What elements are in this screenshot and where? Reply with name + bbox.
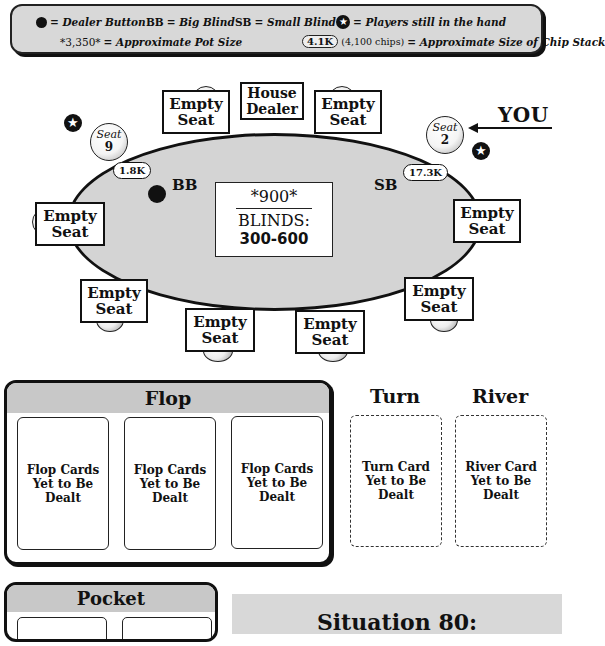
legend-panel: = Dealer Button BB = Big Blind SB = Smal… — [10, 4, 543, 54]
house-dealer: House Dealer — [240, 82, 304, 120]
dealer-text: House — [242, 85, 302, 101]
card-text: Dealt — [134, 491, 206, 505]
pocket-panel: Pocket — [4, 582, 218, 642]
card-text: Dealt — [241, 490, 313, 504]
empty-seat-top-left: Empty Seat — [162, 90, 230, 134]
seat-text: Empty — [297, 316, 363, 332]
legend-bb-abbr: BB — [146, 16, 164, 28]
pot-box: *900* BLINDS: 300-600 — [215, 182, 333, 257]
seat-text: Seat — [316, 112, 380, 128]
legend-row-2: *3,350* = Approximate Pot Size 4.1K (4,1… — [60, 35, 605, 48]
card-text: Flop Cards — [134, 463, 206, 477]
seat-text: Empty — [82, 285, 146, 301]
seat-text: Empty — [37, 208, 103, 224]
legend-chip-desc: = Approximate Size of Chip Stack — [407, 36, 605, 48]
legend-dealer: = Dealer Button — [36, 16, 146, 28]
pocket-title: Pocket — [7, 585, 215, 612]
seat-text: Empty — [187, 314, 253, 330]
turn-title: Turn — [370, 385, 420, 407]
seat-text: Seat — [164, 112, 228, 128]
empty-seat-bottom-left: Empty Seat — [80, 279, 148, 323]
legend-sb-desc: = Small Blind — [254, 16, 335, 28]
card-text: Dealt — [27, 491, 99, 505]
situation-title: Situation 80: — [232, 594, 562, 634]
empty-seat-top-right: Empty Seat — [314, 90, 382, 134]
legend-chip-note: (4,100 chips) — [341, 36, 404, 47]
small-blind-label: SB — [374, 176, 398, 194]
seat-text: Empty — [406, 283, 472, 299]
empty-seat-right: Empty Seat — [453, 199, 521, 243]
seat-9-stack: 1.8K — [113, 162, 151, 179]
river-title: River — [472, 385, 528, 407]
star-icon: ★ — [472, 142, 490, 160]
empty-seat-bottom-center-left: Empty Seat — [185, 308, 255, 352]
legend-sb: SB = Small Blind — [235, 16, 336, 28]
empty-seat-left: Empty Seat — [35, 202, 105, 246]
flop-card-2: Flop Cards Yet to Be Dealt — [124, 417, 216, 550]
seat-text: Seat — [82, 301, 146, 317]
pocket-card-1 — [17, 617, 107, 642]
dealer-text: Dealer — [242, 101, 302, 117]
legend-star-desc: = Players still in the hand — [353, 16, 506, 28]
legend-star: ★ = Players still in the hand — [336, 15, 506, 29]
big-blind-label: BB — [172, 176, 197, 194]
flop-card-3: Flop Cards Yet to Be Dealt — [231, 416, 323, 549]
legend-pot-desc: = Approximate Pot Size — [104, 36, 243, 48]
pot-size: *900* — [236, 187, 312, 209]
dealer-button-icon — [36, 17, 47, 28]
seat-text: Seat — [455, 221, 519, 237]
empty-seat-bottom-right: Empty Seat — [404, 277, 474, 321]
star-icon: ★ — [336, 15, 350, 29]
card-text: Yet to Be — [362, 474, 430, 488]
you-label: YOU — [498, 103, 549, 127]
card-text: Dealt — [362, 488, 430, 502]
card-text: River Card — [465, 460, 537, 474]
seat-text: Empty — [164, 96, 228, 112]
seat-text: Seat — [406, 299, 472, 315]
pocket-card-2 — [122, 617, 212, 642]
dealer-button-icon — [148, 185, 166, 203]
star-icon: ★ — [64, 114, 82, 132]
flop-card-1: Flop Cards Yet to Be Dealt — [17, 417, 109, 550]
legend-bb: BB = Big Blind — [146, 16, 235, 28]
legend-row-1: = Dealer Button BB = Big Blind SB = Smal… — [36, 15, 506, 29]
blinds-label: BLINDS: — [216, 211, 332, 230]
arrow-left-icon — [472, 127, 552, 129]
flop-panel: Flop Flop Cards Yet to Be Dealt Flop Car… — [4, 380, 332, 565]
seat-number: 2 — [427, 134, 463, 147]
legend-pot-example: *3,350* — [60, 36, 101, 48]
seat-number: 9 — [91, 141, 127, 154]
card-text: Yet to Be — [465, 474, 537, 488]
card-text: Flop Cards — [241, 462, 313, 476]
seat-9[interactable]: Seat 9 — [90, 123, 128, 161]
seat-text: Empty — [316, 96, 380, 112]
card-text: Dealt — [465, 488, 537, 502]
legend-dealer-text: = Dealer Button — [50, 16, 146, 28]
seat-text: Seat — [297, 332, 363, 348]
card-text: Flop Cards — [27, 463, 99, 477]
seat-text: Seat — [187, 330, 253, 346]
card-text: Turn Card — [362, 460, 430, 474]
legend-sb-abbr: SB — [235, 16, 251, 28]
blinds-value: 300-600 — [216, 230, 332, 248]
turn-card: Turn Card Yet to Be Dealt — [350, 415, 442, 547]
seat-text: Empty — [455, 205, 519, 221]
card-text: Yet to Be — [134, 477, 206, 491]
seat-text: Seat — [37, 224, 103, 240]
seat-2[interactable]: Seat 2 — [426, 116, 464, 154]
empty-seat-bottom-center-right: Empty Seat — [295, 310, 365, 354]
flop-title: Flop — [7, 383, 329, 413]
legend-bb-desc: = Big Blind — [167, 16, 235, 28]
legend-chip-example: 4.1K — [302, 35, 338, 48]
river-card: River Card Yet to Be Dealt — [455, 415, 547, 547]
seat-2-stack: 17.3K — [403, 164, 448, 181]
card-text: Yet to Be — [27, 477, 99, 491]
card-text: Yet to Be — [241, 476, 313, 490]
